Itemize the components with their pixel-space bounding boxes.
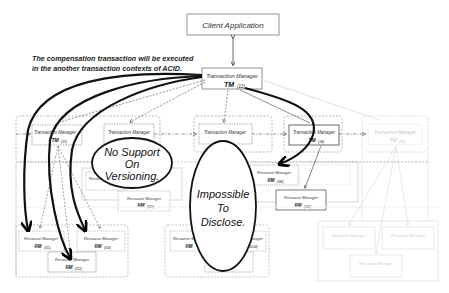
- svg-text:Resource Manager: Resource Manager: [391, 233, 426, 238]
- svg-text:To: To: [217, 202, 229, 214]
- tm-25: Transaction Manager TM (25): [368, 124, 422, 145]
- svg-text:(314): (314): [104, 246, 111, 250]
- svg-text:On: On: [125, 158, 140, 170]
- svg-text:Client Application: Client Application: [202, 21, 264, 30]
- svg-text:RM: RM: [35, 244, 42, 249]
- svg-text:RM: RM: [186, 244, 193, 249]
- svg-text:(311): (311): [44, 246, 51, 250]
- svg-text:Resource Manager: Resource Manager: [257, 170, 292, 175]
- rm-341: Resource Manager RM (341): [250, 165, 298, 185]
- diagram-canvas: Client Application The compensation tran…: [0, 0, 449, 293]
- svg-text:Transaction Manager: Transaction Manager: [206, 73, 259, 79]
- svg-text:(24): (24): [318, 140, 324, 144]
- svg-text:Resource Manager: Resource Manager: [284, 195, 319, 200]
- root-transaction-manager: Transaction Manager TM (11): [202, 68, 262, 89]
- svg-text:No Support: No Support: [104, 146, 161, 158]
- rm-323: Resource Manager RM (323): [118, 191, 170, 211]
- svg-text:(21): (21): [61, 140, 67, 144]
- svg-text:Versioning.: Versioning.: [105, 170, 160, 182]
- svg-text:Resource Manager: Resource Manager: [332, 233, 367, 238]
- svg-text:Transaction Manager: Transaction Manager: [108, 130, 151, 135]
- impossible-to-disclose-callout: Impossible To Disclose.: [190, 141, 256, 271]
- svg-text:(312): (312): [75, 267, 82, 271]
- svg-text:Transaction Manager: Transaction Manager: [374, 130, 417, 135]
- svg-text:(11): (11): [237, 84, 245, 89]
- no-support-versioning-callout: No Support On Versioning.: [92, 138, 172, 188]
- annotation-line-2: in the another transaction contexts of A…: [32, 64, 182, 73]
- svg-text:TM: TM: [51, 137, 59, 143]
- svg-text:TM: TM: [389, 137, 397, 143]
- svg-text:Resource Manager: Resource Manager: [84, 236, 119, 241]
- rm-314: Resource Manager RM (314): [77, 231, 125, 251]
- svg-text:(25): (25): [399, 140, 405, 144]
- annotation-line-1: The compensation transaction will be exe…: [32, 54, 194, 63]
- svg-text:Resource Manager: Resource Manager: [55, 257, 90, 262]
- rm-311: Resource Manager RM (311): [19, 231, 64, 251]
- svg-text:Disclose.: Disclose.: [201, 216, 246, 228]
- svg-text:(341): (341): [277, 180, 284, 184]
- svg-text:Resource Manager: Resource Manager: [127, 196, 162, 201]
- svg-text:RM: RM: [268, 178, 275, 183]
- svg-text:Resource Manager: Resource Manager: [359, 261, 394, 266]
- svg-text:RM: RM: [66, 265, 73, 270]
- rm-312: Resource Manager RM (312): [48, 252, 96, 272]
- client-application-box: Client Application: [187, 14, 279, 35]
- svg-text:TM: TM: [224, 81, 234, 88]
- svg-text:Resource Manager: Resource Manager: [24, 236, 59, 241]
- svg-text:Transaction Manager: Transaction Manager: [204, 130, 247, 135]
- svg-text:Impossible: Impossible: [197, 188, 250, 200]
- svg-text:RM: RM: [95, 244, 102, 249]
- svg-text:Transaction Manager: Transaction Manager: [34, 130, 77, 135]
